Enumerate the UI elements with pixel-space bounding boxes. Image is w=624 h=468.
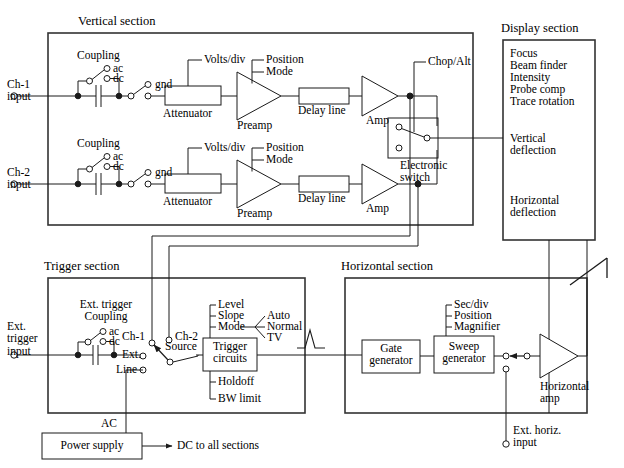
display-control-trace-rotation: Trace rotation	[510, 95, 574, 107]
trigger-source-option-ch1: Ch-1	[122, 330, 145, 342]
trigger-source-option-ext: Ext.	[122, 348, 141, 360]
ch2-gnd-contact-down	[145, 181, 151, 187]
ch2-amp-label: Amp	[366, 202, 389, 214]
trigger-pulse-waveform	[297, 330, 325, 348]
ext-trigger-coupling-label: Ext. trigger Coupling	[60, 298, 152, 323]
ext-horiz-input-terminal	[503, 441, 509, 447]
ch2-gnd-pivot	[128, 181, 134, 187]
ch2-ac-pivot	[87, 166, 93, 172]
ch1-volts-div-label: Volts/div	[204, 53, 245, 65]
trigger-section-title: Trigger section	[44, 260, 120, 274]
ch1-dc-contact	[104, 76, 110, 82]
ext-dc-contact	[100, 339, 106, 345]
electronic-switch-contact-bottom	[396, 145, 402, 151]
ch1-delay-line-label: Delay line	[298, 104, 346, 116]
display-control-beam-finder: Beam finder	[510, 59, 567, 71]
crt-diagonal	[570, 258, 607, 285]
ch1-dc-label: dc	[113, 72, 124, 84]
display-control-intensity: Intensity	[510, 71, 550, 83]
electronic-switch-pole	[424, 135, 430, 141]
ch2-ac-contact	[104, 154, 110, 160]
ch1-delay-line-box	[299, 88, 349, 104]
horiz-source-sweep-contact	[503, 353, 509, 359]
horiz-source-ext-contact	[503, 366, 509, 372]
ch2-gnd-label: gnd	[155, 166, 172, 178]
sweep-control-magnifier: Magnifier	[454, 320, 500, 332]
ch2-delay-line-label: Delay line	[298, 192, 346, 204]
vertical-section-title: Vertical section	[78, 15, 155, 29]
trigger-source-pole	[167, 359, 173, 365]
ch2-input-label: Ch-2 input	[7, 166, 31, 191]
ch2-preamp-label: Preamp	[237, 207, 272, 219]
horizontal-amp-label: Horizontal amp	[540, 380, 589, 405]
horizontal-deflection-label: Horizontal deflection	[510, 194, 559, 219]
ch1-preamp-label: Preamp	[237, 119, 272, 131]
ch2-volts-div-label: Volts/div	[204, 141, 245, 153]
trigger-source-option-line: Line	[116, 363, 137, 375]
ch1-attenuator-label: Attenuator	[163, 107, 212, 119]
ch2-attenuator-box	[165, 174, 221, 193]
ch2-delay-line-box	[299, 176, 349, 192]
ch1-ac-pivot	[87, 78, 93, 84]
ext-horiz-input-label: Ext. horiz. input	[513, 424, 561, 449]
electronic-switch-label: Electronic switch	[400, 159, 447, 184]
ext-trigger-input-label: Ext. trigger input	[7, 320, 38, 357]
ch2-coupling-label: Coupling	[77, 137, 120, 149]
sweep-generator-label: Sweep generator	[434, 340, 494, 365]
ch1-gnd-contact-up	[145, 82, 151, 88]
ext-ac-pivot	[85, 339, 91, 345]
vertical-deflection-label: Vertical deflection	[510, 132, 556, 157]
ch1-attenuator-box	[165, 86, 221, 105]
ch1-ac-contact	[104, 66, 110, 72]
ch1-gnd-pivot	[128, 93, 134, 99]
dc-to-all-sections-label: DC to all sections	[177, 439, 259, 451]
gate-generator-label: Gate generator	[362, 342, 420, 367]
horizontal-amp-triangle	[540, 334, 578, 378]
chop-alt-label: Chop/Alt	[428, 55, 471, 67]
power-supply-label: Power supply	[42, 439, 142, 451]
display-control-probe-comp: Probe comp	[510, 83, 565, 95]
ch2-gnd-contact-up	[145, 170, 151, 176]
ch1-coupling-label: Coupling	[77, 49, 120, 61]
display-section-title: Display section	[501, 22, 578, 36]
ext-trigger-dc-label: dc	[109, 335, 120, 347]
ac-label: AC	[101, 417, 117, 429]
electronic-switch-contact-top	[396, 124, 402, 130]
trigger-control-bw-limit: BW limit	[218, 392, 261, 404]
ch2-attenuator-label: Attenuator	[163, 195, 212, 207]
trigger-source-label: Source	[165, 340, 197, 352]
ch2-preamp-triangle	[237, 160, 281, 208]
horiz-source-pole	[524, 353, 530, 359]
ch1-gnd-label: gnd	[155, 78, 172, 90]
horizontal-section-title: Horizontal section	[341, 260, 433, 274]
trigger-control-mode: Mode	[218, 320, 245, 332]
trigger-mode-option-tv: TV	[267, 331, 282, 343]
trigger-circuits-label: Trigger circuits	[203, 340, 257, 365]
ch2-position-label: Position	[266, 141, 304, 153]
trigger-control-holdoff: Holdoff	[218, 375, 254, 387]
ch2-amp-triangle	[362, 164, 398, 204]
ch1-input-label: Ch-1 input	[7, 78, 31, 103]
ch1-preamp-triangle	[237, 72, 281, 120]
ext-ac-contact	[100, 329, 106, 335]
ch1-amp-triangle	[362, 76, 398, 116]
ch2-mode-label: Mode	[266, 153, 293, 165]
ch1-gnd-contact-down	[145, 93, 151, 99]
ch1-amp-label: Amp	[366, 114, 389, 126]
ch2-dc-label: dc	[113, 160, 124, 172]
ch1-mode-label: Mode	[266, 65, 293, 77]
display-control-focus: Focus	[510, 47, 537, 59]
ch2-dc-contact	[104, 164, 110, 170]
ch1-position-label: Position	[266, 53, 304, 65]
oscilloscope-block-diagram: Vertical section Display section Trigger…	[0, 0, 624, 468]
